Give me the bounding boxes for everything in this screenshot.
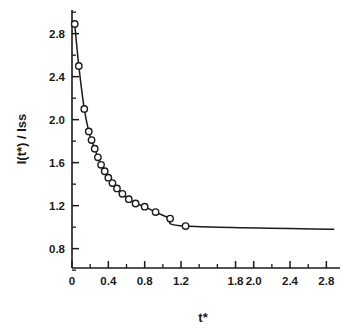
y-tick-label: 1.2 — [49, 200, 65, 212]
y-axis-title: I(t*) / Iss — [14, 114, 29, 165]
data-curve — [75, 24, 334, 229]
x-axis-title: t* — [198, 310, 208, 325]
x-tick-label: 0.8 — [137, 275, 154, 287]
chart-plot-area: 00.40.81.21.82.02.42.80.81.21.62.02.42.8… — [0, 0, 349, 330]
y-tick-label: 2.4 — [49, 71, 66, 83]
y-tick-label: 2.8 — [49, 28, 66, 40]
y-tick-label: 2.0 — [49, 114, 65, 126]
data-point-marker — [182, 223, 188, 229]
data-point-marker — [114, 185, 120, 191]
data-point-marker — [119, 191, 125, 197]
data-point-marker — [102, 168, 108, 174]
data-point-marker — [88, 137, 94, 143]
data-point-marker — [132, 200, 138, 206]
data-point-marker — [141, 204, 147, 210]
x-tick-label: 2.8 — [318, 275, 335, 287]
y-tick-label: 1.6 — [49, 157, 65, 169]
x-tick-label: 0 — [69, 275, 75, 287]
x-tick-label: 2.0 — [246, 275, 262, 287]
x-tick-label: 2.4 — [282, 275, 299, 287]
data-point-marker — [86, 128, 92, 134]
data-point-marker — [92, 145, 98, 151]
data-point-marker — [81, 106, 87, 112]
data-point-marker — [167, 215, 173, 221]
data-point-marker — [152, 209, 158, 215]
data-point-marker — [126, 196, 132, 202]
data-point-marker — [76, 63, 82, 69]
data-point-marker — [72, 21, 78, 27]
chart-figure: 00.40.81.21.82.02.42.80.81.21.62.02.42.8… — [0, 0, 349, 330]
x-tick-label: 1.2 — [173, 275, 189, 287]
data-point-marker — [95, 154, 101, 160]
data-point-marker — [98, 162, 104, 168]
y-tick-label: 0.8 — [49, 243, 66, 255]
x-tick-label: 0.4 — [100, 275, 117, 287]
x-tick-label: 1.8 — [228, 275, 245, 287]
